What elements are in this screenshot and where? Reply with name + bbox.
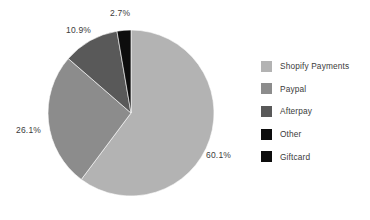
slice-label-other: 2.7% xyxy=(110,8,130,18)
pie-chart-figure: 2.7% 10.9% 26.1% 60.1% Shopify PaymentsP… xyxy=(0,0,370,220)
legend-item-afterpay[interactable]: Afterpay xyxy=(261,100,369,123)
legend-item-paypal[interactable]: Paypal xyxy=(261,78,369,101)
legend-item-giftcard[interactable]: Giftcard xyxy=(261,145,369,168)
legend-item-label: Shopify Payments xyxy=(280,62,349,70)
legend-swatch-icon xyxy=(261,106,272,117)
legend-item-label: Other xyxy=(280,130,302,138)
legend-swatch-icon xyxy=(261,61,272,72)
legend-item-other[interactable]: Other xyxy=(261,123,369,146)
legend-swatch-icon xyxy=(261,129,272,140)
pie-plot-area xyxy=(0,0,250,220)
slice-label-afterpay: 10.9% xyxy=(66,25,91,35)
legend-item-label: Paypal xyxy=(280,85,306,93)
legend-swatch-icon xyxy=(261,151,272,162)
legend-swatch-icon xyxy=(261,83,272,94)
legend-item-shopify-payments[interactable]: Shopify Payments xyxy=(261,55,369,78)
slice-label-paypal: 26.1% xyxy=(16,125,41,135)
legend-item-label: Afterpay xyxy=(280,107,312,115)
pie-slices-group xyxy=(48,30,214,196)
slice-label-shopify-payments: 60.1% xyxy=(206,150,231,160)
pie-svg xyxy=(0,0,250,220)
legend-item-label: Giftcard xyxy=(280,153,310,161)
chart-legend: Shopify PaymentsPaypalAfterpayOtherGiftc… xyxy=(261,55,369,168)
